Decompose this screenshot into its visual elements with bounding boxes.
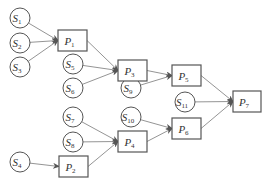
edge-P4-P6 bbox=[147, 129, 172, 142]
process-node-p3: P3 bbox=[118, 60, 147, 81]
edge-S10-P6 bbox=[141, 120, 172, 129]
process-node-p2: P2 bbox=[59, 156, 88, 177]
source-node-s10: S10 bbox=[121, 107, 141, 127]
process-node-p7: P7 bbox=[233, 91, 261, 112]
edge-S4-P2 bbox=[30, 163, 59, 166]
source-node-s5: S5 bbox=[63, 54, 83, 74]
edge-P3-P5 bbox=[147, 71, 172, 76]
edge-S3-P1 bbox=[28, 41, 58, 62]
process-node-p6: P6 bbox=[172, 118, 201, 139]
edge-P6-P7 bbox=[201, 102, 233, 129]
source-node-s7: S7 bbox=[63, 107, 83, 127]
process-node-p5: P5 bbox=[172, 65, 201, 86]
source-node-s2: S2 bbox=[10, 33, 30, 53]
source-node-s11: S11 bbox=[175, 92, 195, 112]
edge-S5-P3 bbox=[83, 65, 118, 70]
source-nodes: S1S2S3S4S5S6S7S8S9S10S11 bbox=[10, 8, 195, 172]
edge-S1-P1 bbox=[29, 23, 58, 40]
process-diagram: S1S2S3S4S5S6S7S8S9S10S11 P1P2P3P4P5P6P7 bbox=[0, 0, 271, 184]
source-node-s8: S8 bbox=[63, 132, 83, 152]
edge-S7-P4 bbox=[82, 122, 118, 142]
source-node-s6: S6 bbox=[63, 78, 83, 98]
source-node-s4: S4 bbox=[10, 152, 30, 172]
process-node-p4: P4 bbox=[118, 131, 147, 152]
edge-P2-P4 bbox=[88, 142, 118, 167]
source-node-s3: S3 bbox=[10, 57, 30, 77]
edge-S2-P1 bbox=[30, 41, 58, 43]
edge-S6-P3 bbox=[82, 71, 118, 85]
process-node-p1: P1 bbox=[58, 30, 87, 51]
source-node-s1: S1 bbox=[10, 8, 30, 28]
edge-P1-P3 bbox=[87, 41, 118, 71]
edge-P5-P7 bbox=[201, 76, 233, 102]
